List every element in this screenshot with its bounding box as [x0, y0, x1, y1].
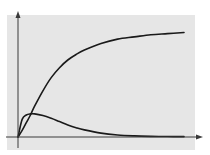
x-axis-arrow-icon [196, 135, 203, 140]
y-axis-arrow-icon [16, 11, 21, 18]
plot-background [7, 15, 195, 150]
line-chart [0, 0, 210, 155]
